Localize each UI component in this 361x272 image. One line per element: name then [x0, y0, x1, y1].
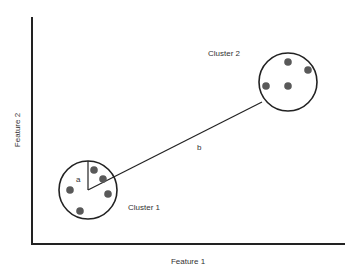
data-point	[262, 82, 270, 90]
data-point	[99, 175, 107, 183]
cluster-1: a Cluster 1	[59, 161, 161, 219]
data-point	[304, 66, 312, 74]
data-point	[284, 82, 292, 90]
cluster-diagram: Feature 2 Feature 1 b a Cluster 1 Cluste…	[0, 0, 361, 272]
data-point	[66, 186, 74, 194]
data-point	[284, 58, 292, 66]
x-axis-label: Feature 1	[171, 257, 206, 266]
data-point	[76, 207, 84, 215]
cluster-2: Cluster 2	[208, 49, 317, 111]
y-axis-label: Feature 2	[13, 112, 22, 147]
cluster-2-label: Cluster 2	[208, 49, 241, 58]
radius-label-a: a	[76, 175, 81, 184]
distance-label-b: b	[197, 143, 202, 152]
data-point	[104, 190, 112, 198]
data-point	[90, 166, 98, 174]
cluster-1-label: Cluster 1	[128, 203, 161, 212]
